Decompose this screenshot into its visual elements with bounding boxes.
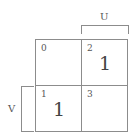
kmap-cell-0: 0 xyxy=(36,40,82,86)
cell-index: 0 xyxy=(41,44,47,53)
kmap-cell-2: 2 1 xyxy=(82,40,128,86)
cell-value: 1 xyxy=(82,54,128,73)
cell-index: 2 xyxy=(87,44,93,53)
kmap-cell-1: 1 1 xyxy=(36,86,82,132)
cell-index: 3 xyxy=(87,90,93,99)
karnaugh-map-grid: 0 2 1 1 1 3 xyxy=(35,39,128,132)
column-variable-label: U xyxy=(100,12,108,22)
cell-value: 1 xyxy=(36,100,82,119)
kmap-cell-3: 3 xyxy=(82,86,128,132)
row-variable-label: V xyxy=(8,104,15,114)
cell-index: 1 xyxy=(41,90,47,99)
